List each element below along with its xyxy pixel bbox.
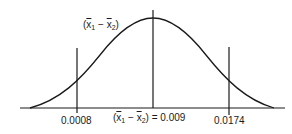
- normal-curve: [30, 18, 274, 108]
- minus: −: [95, 19, 106, 30]
- paren: ): [116, 19, 119, 30]
- mean-value: ) = 0.009: [146, 112, 186, 123]
- curve-label: (x1 − x2): [83, 20, 119, 31]
- minus: −: [125, 112, 136, 123]
- normal-distribution-diagram: (x1 − x2) 0.0008 (x1 − x2) = 0.009 0.017…: [0, 0, 292, 134]
- lower-bound-label: 0.0008: [61, 116, 92, 126]
- mean-label: (x1 − x2) = 0.009: [113, 113, 185, 124]
- upper-bound-label: 0.0174: [214, 116, 245, 126]
